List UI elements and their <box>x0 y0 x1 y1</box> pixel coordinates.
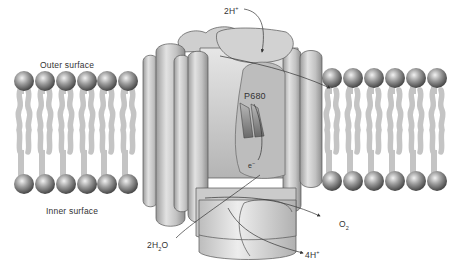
left-inner-heads <box>14 174 138 194</box>
water-text: 2H <box>147 240 158 250</box>
electron-charge: − <box>252 160 255 166</box>
proton-in-label: 2H+ <box>224 5 239 16</box>
inner-surface-label: Inner surface <box>46 206 98 216</box>
photosystem-protein <box>143 27 322 260</box>
left-lipid-tails <box>18 84 134 180</box>
water-text-tail: O <box>162 240 169 250</box>
helix-left-3 <box>174 55 190 212</box>
helix-right-front <box>300 51 322 188</box>
p680-label: P680 <box>244 91 266 101</box>
proton-out-text: 4H <box>305 250 316 260</box>
proton-in-charge: + <box>235 5 238 11</box>
right-outer-heads <box>322 68 447 88</box>
p680-text: P680 <box>244 91 266 101</box>
photosystem-diagram: Outer surface Inner surface 2H+ P680 e− … <box>0 0 460 274</box>
helix-right-back <box>283 48 301 212</box>
diagram-canvas <box>0 0 460 274</box>
oxygen-text: O <box>339 219 346 229</box>
oxygen-subscript: 2 <box>346 225 349 231</box>
left-outer-heads <box>14 71 138 91</box>
inner-surface-text: Inner surface <box>46 206 98 216</box>
electron-label: e− <box>248 160 256 169</box>
left-lipid-layer <box>14 71 138 194</box>
water-label: 2H2O <box>147 240 168 252</box>
outer-surface-text: Outer surface <box>40 60 94 70</box>
right-inner-heads <box>322 171 447 191</box>
proton-out-label: 4H+ <box>305 249 320 260</box>
right-lipid-tails <box>326 84 443 180</box>
oxygen-label: O2 <box>339 219 349 231</box>
right-lipid-layer <box>322 68 447 191</box>
proton-in-text: 2H <box>224 6 235 16</box>
outer-surface-label: Outer surface <box>40 60 94 70</box>
proton-out-charge: + <box>316 249 319 255</box>
